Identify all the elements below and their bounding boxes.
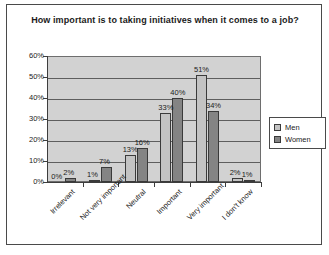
x-tick-mark <box>190 183 191 187</box>
bar-value-label: 1% <box>242 171 253 179</box>
legend-label-women: Women <box>285 135 311 144</box>
gridline <box>48 78 260 79</box>
bar-women <box>101 167 112 182</box>
bar-value-label: 2% <box>63 169 74 177</box>
legend-item-women[interactable]: Women <box>274 133 322 145</box>
y-tick-mark <box>43 119 47 120</box>
bar-women <box>208 111 219 182</box>
y-tick-mark <box>43 77 47 78</box>
gridline <box>48 162 260 163</box>
bar-value-label: 2% <box>230 169 241 177</box>
category-label: Neutral <box>114 188 148 222</box>
bar-value-label: 33% <box>158 104 173 112</box>
gridline <box>48 99 260 100</box>
chart-title: How important is to taking initiatives w… <box>23 14 307 26</box>
category-label: Very important <box>185 188 219 222</box>
gridline <box>48 141 260 142</box>
category-label: Irrelevant <box>43 188 77 222</box>
legend-label-men: Men <box>285 123 300 132</box>
y-tick-label: 20% <box>14 136 44 144</box>
legend-swatch-women-icon <box>274 136 281 143</box>
legend-item-men[interactable]: Men <box>274 121 322 133</box>
bar-men <box>89 180 100 182</box>
bar-value-label: 1% <box>87 171 98 179</box>
x-tick-mark <box>154 183 155 187</box>
bar-value-label: 34% <box>206 102 221 110</box>
y-axis-line <box>47 56 48 183</box>
y-tick-label: 60% <box>14 52 44 60</box>
bar-men <box>160 113 171 182</box>
x-tick-mark <box>225 183 226 187</box>
y-tick-mark <box>43 182 47 183</box>
legend-swatch-men-icon <box>274 124 281 131</box>
category-label: Not very important <box>78 188 112 222</box>
bar-women <box>137 148 148 182</box>
y-tick-mark <box>43 140 47 141</box>
bar-men <box>196 75 207 182</box>
bar-women <box>172 98 183 182</box>
bar-value-label: 16% <box>135 139 150 147</box>
y-tick-label: 40% <box>14 94 44 102</box>
x-tick-mark <box>261 183 262 187</box>
plot-area <box>47 56 261 182</box>
y-tick-label: 10% <box>14 157 44 165</box>
bar-value-label: 7% <box>99 158 110 166</box>
y-tick-mark <box>43 98 47 99</box>
y-tick-label: 50% <box>14 73 44 81</box>
bar-value-label: 0% <box>51 173 62 181</box>
y-tick-mark <box>43 56 47 57</box>
chart-frame: How important is to taking initiatives w… <box>6 4 322 245</box>
category-label: Important <box>150 188 184 222</box>
x-tick-mark <box>83 183 84 187</box>
y-axis-labels: 60%50%40%30%20%10%0% <box>11 5 44 255</box>
bar-women <box>244 180 255 182</box>
category-label: I don't know <box>221 188 255 222</box>
y-tick-label: 0% <box>14 178 44 186</box>
bar-women <box>65 178 76 182</box>
bar-value-label: 40% <box>170 89 185 97</box>
y-tick-mark <box>43 161 47 162</box>
gridline <box>48 120 260 121</box>
bar-value-label: 51% <box>194 66 209 74</box>
y-tick-label: 30% <box>14 115 44 123</box>
chart-legend: Men Women <box>269 117 326 149</box>
